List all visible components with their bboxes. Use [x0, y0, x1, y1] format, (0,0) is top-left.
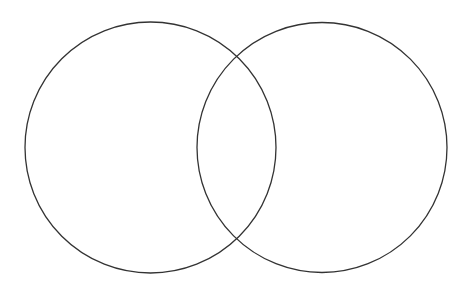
venn-diagram: [0, 0, 471, 291]
right-circle: [197, 23, 447, 273]
left-circle: [25, 22, 276, 273]
venn-diagram-canvas: [0, 0, 471, 291]
